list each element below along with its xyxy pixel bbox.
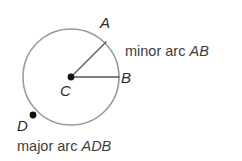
minor-arc-caption-points: AB <box>189 43 208 59</box>
major-arc-caption-points: ADB <box>81 138 111 154</box>
point-dot-d <box>30 112 37 119</box>
center-point-dot-c <box>68 74 75 81</box>
minor-arc-caption-prefix: minor arc <box>125 43 189 59</box>
radius-line-CA <box>71 42 106 77</box>
point-label-a: A <box>100 15 110 30</box>
point-label-d: D <box>17 118 28 133</box>
minor-arc-caption: minor arc AB <box>125 44 209 59</box>
circle-arcs-diagram: A B C D minor arc AB major arc ADB <box>0 0 242 161</box>
major-arc-caption-prefix: major arc <box>17 138 81 154</box>
point-label-c: C <box>60 83 71 98</box>
major-arc-caption: major arc ADB <box>17 139 111 154</box>
point-label-b: B <box>121 70 131 85</box>
